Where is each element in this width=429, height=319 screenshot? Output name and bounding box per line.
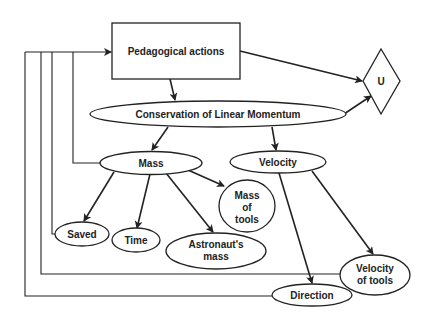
node-conservation: Conservation of Linear Momentum [90, 101, 346, 127]
edge-mass-saved [84, 172, 114, 221]
edge-mass-mass-of-tools [188, 170, 224, 186]
edge-pedagogical-u [240, 51, 362, 81]
node-label-line-3: tools [235, 214, 259, 225]
node-u: U [363, 49, 400, 114]
node-velocity-of-tools: Velocity of tools [340, 255, 410, 295]
node-label-line-2: of tools [357, 275, 394, 286]
node-label: Velocity [259, 157, 297, 168]
edge-velocity-direction [279, 173, 312, 283]
node-label-line-2: mass [203, 251, 229, 262]
wire-saved-feedback [52, 52, 55, 234]
node-label-line-1: Mass [234, 190, 259, 201]
node-label: U [377, 76, 384, 87]
node-label: Saved [67, 229, 96, 240]
node-saved: Saved [55, 222, 109, 246]
node-label: Direction [290, 290, 333, 301]
wire-mass-feedback [73, 52, 100, 163]
edge-velocity-velocity-of-tools [312, 171, 373, 254]
edge-pedagogical-conservation [170, 79, 175, 100]
node-direction: Direction [272, 284, 352, 306]
edge-mass-time [137, 174, 150, 228]
node-astronauts-mass: Astronaut's mass [166, 233, 266, 269]
diagram-canvas: Pedagogical actions U Conservation of Li… [0, 0, 429, 319]
node-label: Pedagogical actions [128, 46, 225, 57]
edge-conservation-mass [152, 127, 168, 150]
edge-conservation-velocity [272, 127, 276, 150]
node-label: Conservation of Linear Momentum [135, 109, 300, 120]
node-label-line-1: Velocity [356, 263, 394, 274]
edge-conservation-u [344, 96, 371, 114]
node-label: Mass [138, 158, 163, 169]
node-pedagogical-actions: Pedagogical actions [112, 23, 240, 79]
node-velocity: Velocity [230, 151, 326, 173]
node-mass-of-tools: Mass of tools [219, 180, 275, 232]
node-mass: Mass [100, 152, 202, 175]
node-label-line-1: Astronaut's [188, 239, 244, 250]
node-label-line-2: of [242, 202, 252, 213]
node-label: Time [124, 235, 148, 246]
edge-mass-astronauts-mass [166, 173, 213, 232]
node-time: Time [112, 228, 160, 252]
